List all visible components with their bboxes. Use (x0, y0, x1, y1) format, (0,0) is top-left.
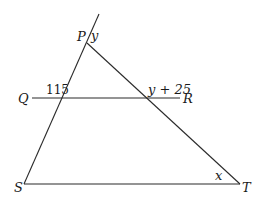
label-p: P (76, 29, 86, 44)
angle-label-y-plus-25: y + 25 (147, 82, 191, 97)
line-ps-extended (24, 14, 99, 184)
label-s: S (14, 180, 23, 195)
angle-label-y: y (90, 28, 99, 43)
label-t: T (242, 180, 252, 195)
angle-label-x: x (215, 168, 223, 183)
triangle-diagram: P Q R S T y 115 y + 25 x (0, 0, 264, 205)
label-q: Q (18, 91, 29, 106)
segment-pt (87, 43, 240, 184)
angle-label-115: 115 (46, 83, 69, 97)
